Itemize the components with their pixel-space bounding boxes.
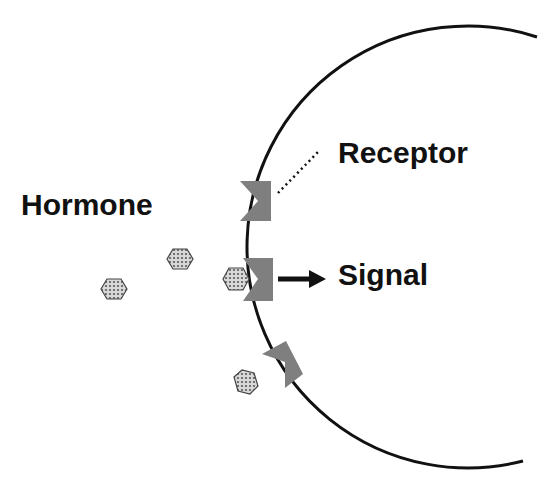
receptor-label: Receptor [338,138,468,168]
hormone-label: Hormone [21,190,153,220]
cell-membrane [247,26,537,468]
hormone-2-icon [167,249,193,269]
signal-arrow-head-icon [309,270,326,288]
receptor-1-icon [240,181,271,221]
hormone-4-icon [234,370,258,394]
receptor-leader-line [278,152,318,193]
signal-label: Signal [338,260,428,290]
hormone-receptor-diagram [0,0,558,488]
hormone-1-icon [101,279,127,299]
hormone-3-icon [223,268,249,290]
